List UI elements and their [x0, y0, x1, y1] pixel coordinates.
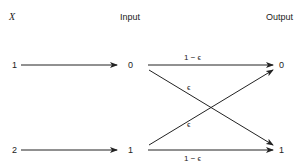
output-header: Output — [266, 13, 293, 22]
output-value-0: 0 — [279, 61, 284, 70]
channel-arrows — [0, 0, 304, 168]
input-value-1: 1 — [128, 146, 133, 155]
input-header: Input — [120, 13, 140, 22]
x-value-1: 1 — [12, 61, 17, 70]
output-value-1: 1 — [279, 146, 284, 155]
edge-label-top: 1 − ϵ — [184, 54, 201, 62]
input-value-0: 0 — [128, 61, 133, 70]
edge-label-cross-up: ϵ — [187, 121, 191, 129]
binary-symmetric-channel-diagram: X Input Output 1 2 0 1 0 1 1 − ϵ 1 − ϵ ϵ… — [0, 0, 304, 168]
edge-label-bottom: 1 − ϵ — [184, 155, 201, 163]
edge-label-cross-down: ϵ — [187, 84, 191, 92]
x-header: X — [9, 12, 15, 22]
x-value-2: 2 — [12, 146, 17, 155]
